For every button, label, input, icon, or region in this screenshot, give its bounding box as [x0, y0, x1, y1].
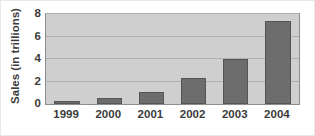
y-axis-tick-label: 4 — [35, 52, 41, 64]
bar — [223, 59, 248, 104]
x-axis-tick-label: 2002 — [180, 108, 206, 120]
y-axis-tick-label: 8 — [35, 7, 41, 19]
bar-series — [46, 14, 299, 104]
y-axis-tick-labels: 02468 — [22, 13, 41, 105]
bar — [265, 21, 290, 104]
y-axis-tick-label: 0 — [35, 97, 41, 109]
x-axis-tick-label: 1999 — [53, 108, 79, 120]
y-axis-tick-label: 2 — [35, 75, 41, 87]
bar — [181, 78, 206, 104]
plot-area — [45, 13, 300, 105]
x-axis-tick-labels: 199920002001200220032004 — [45, 108, 300, 126]
y-axis-title: Sales (in trillions) — [9, 1, 21, 111]
x-axis-tick-label: 2000 — [95, 108, 121, 120]
bar — [97, 98, 122, 104]
x-axis-tick-label: 2001 — [138, 108, 164, 120]
chart-figure: Sales (in trillions) 02468 1999200020012… — [0, 0, 315, 136]
x-axis-tick-label: 2003 — [222, 108, 248, 120]
x-axis-tick-label: 2004 — [264, 108, 290, 120]
bar — [139, 92, 164, 104]
y-axis-tick-label: 6 — [35, 30, 41, 42]
bar — [54, 101, 79, 104]
